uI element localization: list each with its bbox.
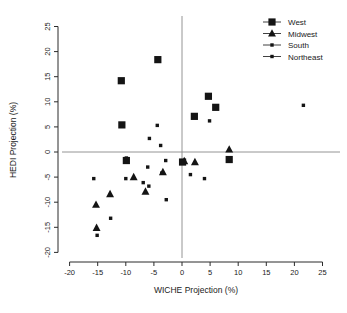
series-west — [118, 56, 233, 166]
data-point — [203, 177, 206, 180]
y-tick-label: -15 — [43, 222, 52, 233]
legend-marker-northeast — [270, 55, 273, 58]
legend-label-midwest: Midwest — [288, 30, 318, 39]
data-point — [92, 200, 100, 207]
data-point — [191, 158, 199, 165]
data-point — [124, 177, 127, 180]
data-point — [160, 171, 163, 174]
chart-legend: WestMidwestSouthNortheast — [263, 18, 323, 62]
x-tick-label: 15 — [262, 268, 270, 277]
data-point — [109, 217, 112, 220]
data-point — [225, 145, 233, 152]
x-tick-label: -15 — [92, 268, 103, 277]
data-point — [164, 159, 167, 162]
data-point — [146, 165, 149, 168]
data-point — [189, 173, 192, 176]
data-point — [93, 224, 101, 231]
legend-label-northeast: Northeast — [288, 53, 323, 62]
plot-canvas: -20-15-10-50510152025 -20-15-10-50510152… — [0, 0, 347, 313]
data-points-layer — [92, 56, 305, 237]
x-tick-label: 10 — [234, 268, 242, 277]
data-point — [92, 177, 95, 180]
data-point — [142, 181, 145, 184]
data-point — [165, 198, 168, 201]
scatter-plot-figure: -20-15-10-50510152025 -20-15-10-50510152… — [0, 0, 347, 313]
data-point — [118, 121, 125, 128]
data-point — [226, 156, 233, 163]
x-tick-label: 0 — [180, 268, 184, 277]
y-tick-label: 5 — [43, 125, 52, 129]
data-point — [130, 173, 138, 180]
data-point — [191, 113, 198, 120]
data-point — [208, 119, 211, 122]
x-tick-label: -20 — [64, 268, 75, 277]
x-tick-label: 5 — [208, 268, 212, 277]
y-tick-label: 20 — [43, 47, 52, 55]
data-point — [148, 137, 151, 140]
data-point — [125, 156, 128, 159]
series-midwest — [92, 145, 233, 231]
data-point — [142, 187, 150, 194]
y-tick-label: 0 — [43, 150, 52, 154]
data-point — [147, 184, 150, 187]
data-point — [156, 124, 159, 127]
x-axis: -20-15-10-50510152025 — [64, 262, 326, 277]
data-point — [212, 104, 219, 111]
legend-label-south: South — [288, 41, 309, 50]
y-tick-label: 25 — [43, 22, 52, 30]
y-tick-label: 15 — [43, 73, 52, 81]
y-tick-label: 10 — [43, 98, 52, 106]
data-point — [95, 234, 98, 237]
x-tick-label: 20 — [290, 268, 298, 277]
x-axis-title: WICHE Projection (%) — [154, 285, 238, 295]
y-axis-title: HEDI Projection (%) — [8, 102, 18, 178]
x-tick-label: 25 — [318, 268, 326, 277]
x-tick-label: -10 — [120, 268, 131, 277]
legend-label-west: West — [288, 18, 307, 27]
x-tick-label: -5 — [151, 268, 158, 277]
y-tick-label: -10 — [43, 197, 52, 208]
legend-marker-west — [268, 18, 275, 25]
y-tick-label: -5 — [43, 174, 52, 181]
data-point — [118, 77, 125, 84]
data-point — [106, 190, 114, 197]
data-point — [205, 93, 212, 100]
data-point — [302, 104, 305, 107]
legend-marker-south — [270, 43, 273, 46]
data-point — [159, 144, 162, 147]
y-tick-label: -20 — [43, 247, 52, 258]
data-point — [154, 56, 161, 63]
legend-marker-midwest — [268, 29, 276, 36]
y-axis: -20-15-10-50510152025 — [43, 22, 58, 257]
